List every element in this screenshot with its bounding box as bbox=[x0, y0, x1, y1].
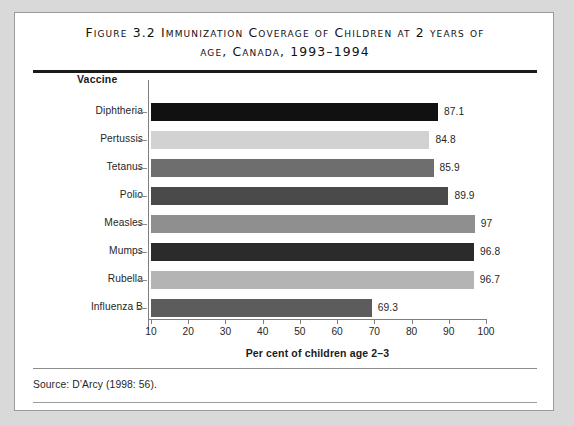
bar bbox=[151, 243, 474, 261]
x-axis-tick bbox=[300, 319, 301, 324]
bar-value-label: 96.8 bbox=[480, 246, 500, 257]
category-label: Pertussis bbox=[31, 133, 143, 144]
y-axis-tick bbox=[137, 308, 147, 309]
figure-card: Figure 3.2 Immunization Coverage of Chil… bbox=[14, 12, 554, 411]
y-axis-tick bbox=[137, 112, 147, 113]
y-axis-tick bbox=[137, 280, 147, 281]
x-axis-line bbox=[148, 319, 487, 320]
category-row: Mumps bbox=[15, 245, 143, 259]
x-axis-tick bbox=[449, 319, 450, 324]
y-axis-tick bbox=[137, 224, 147, 225]
bar-value-label: 85.9 bbox=[440, 162, 460, 173]
x-axis-tick bbox=[263, 319, 264, 324]
bar-value-label: 89.9 bbox=[454, 190, 474, 201]
x-axis-tick-label: 100 bbox=[466, 326, 506, 337]
bar bbox=[151, 215, 475, 233]
x-axis-title: Per cent of children age 2–3 bbox=[148, 347, 487, 359]
bar-value-label: 87.1 bbox=[444, 106, 464, 117]
bar-chart-plot: Vaccine DiphtheriaPertussisTetanusPolioM… bbox=[15, 13, 555, 412]
category-row: Polio bbox=[15, 189, 143, 203]
category-label: Mumps bbox=[31, 245, 143, 256]
bar bbox=[151, 271, 474, 289]
category-row: Tetanus bbox=[15, 161, 143, 175]
category-label: Diphtheria bbox=[31, 105, 143, 116]
bar-value-label: 69.3 bbox=[378, 302, 398, 313]
x-axis-tick bbox=[486, 319, 487, 324]
y-axis-tick bbox=[137, 168, 147, 169]
bar bbox=[151, 131, 429, 149]
x-axis-tick bbox=[188, 319, 189, 324]
x-axis-tick-label: 70 bbox=[354, 326, 394, 337]
x-axis-tick-label: 20 bbox=[168, 326, 208, 337]
x-axis-tick-label: 60 bbox=[317, 326, 357, 337]
bar bbox=[151, 159, 434, 177]
x-axis-tick bbox=[337, 319, 338, 324]
x-axis-tick-label: 90 bbox=[429, 326, 469, 337]
y-axis-line bbox=[148, 80, 149, 330]
x-axis-tick-label: 50 bbox=[280, 326, 320, 337]
bar-value-label: 96.7 bbox=[480, 274, 500, 285]
y-axis-tick bbox=[137, 252, 147, 253]
bar bbox=[151, 299, 372, 317]
category-row: Measles bbox=[15, 217, 143, 231]
figure-inner: Figure 3.2 Immunization Coverage of Chil… bbox=[15, 13, 553, 410]
y-axis-title: Vaccine bbox=[77, 73, 118, 85]
category-label: Rubella bbox=[31, 273, 143, 284]
category-label: Tetanus bbox=[31, 161, 143, 172]
x-axis-tick bbox=[374, 319, 375, 324]
x-axis-tick bbox=[225, 319, 226, 324]
category-label: Polio bbox=[31, 189, 143, 200]
x-axis-tick bbox=[412, 319, 413, 324]
source-note: Source: D’Arcy (1998: 56). bbox=[33, 379, 157, 390]
category-row: Rubella bbox=[15, 273, 143, 287]
bar-value-label: 84.8 bbox=[435, 134, 455, 145]
bar-value-label: 97 bbox=[481, 218, 493, 229]
category-label: Influenza B bbox=[31, 301, 143, 312]
x-axis-tick-label: 30 bbox=[205, 326, 245, 337]
bar bbox=[151, 187, 448, 205]
y-axis-tick bbox=[137, 140, 147, 141]
x-axis-tick-label: 80 bbox=[392, 326, 432, 337]
x-axis-tick-label: 40 bbox=[243, 326, 283, 337]
source-divider bbox=[33, 368, 537, 369]
bottom-divider bbox=[33, 402, 537, 403]
category-row: Pertussis bbox=[15, 133, 143, 147]
x-axis-tick-label: 10 bbox=[131, 326, 171, 337]
category-row: Diphtheria bbox=[15, 105, 143, 119]
y-axis-tick bbox=[137, 196, 147, 197]
bar bbox=[151, 103, 438, 121]
category-label: Measles bbox=[31, 217, 143, 228]
x-axis-tick bbox=[151, 319, 152, 324]
category-row: Influenza B bbox=[15, 301, 143, 315]
